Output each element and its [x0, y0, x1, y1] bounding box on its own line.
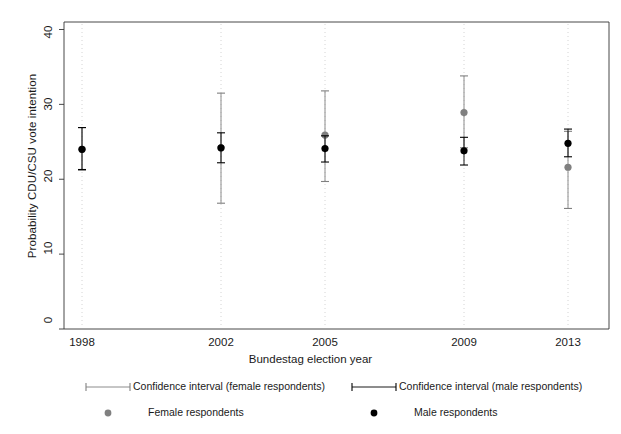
y-axis-ticks [59, 29, 64, 329]
axes-frame [64, 22, 609, 329]
legend-label-ci-female: Confidence interval (female respondents) [133, 380, 325, 392]
legend-label-female: Female respondents [148, 406, 244, 418]
plot-area [0, 0, 621, 434]
legend-label-male: Male respondents [414, 406, 497, 418]
legend-label-ci-male: Confidence interval (male respondents) [399, 380, 582, 392]
chart-figure: Probability CDU/CSU vote intention Bunde… [0, 0, 621, 434]
